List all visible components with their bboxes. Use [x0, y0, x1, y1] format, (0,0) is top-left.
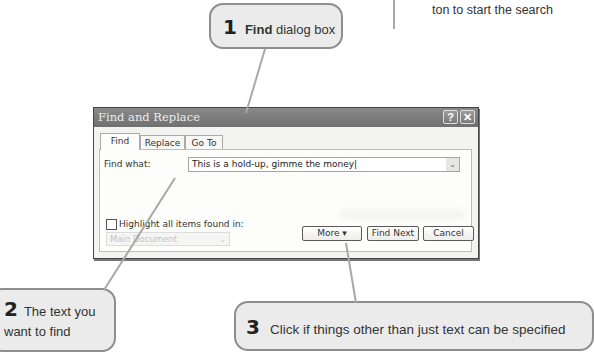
- help-button[interactable]: ?: [443, 110, 458, 124]
- callout-number: 3: [246, 315, 260, 339]
- scope-select[interactable]: Main Document ⌄: [106, 232, 230, 246]
- chevron-down-icon: ⌄: [216, 233, 229, 246]
- find-replace-dialog: Find and Replace ? ✕ Find Replace Go To …: [93, 107, 479, 259]
- tab-find[interactable]: Find: [100, 133, 140, 150]
- cancel-button[interactable]: Cancel: [423, 226, 474, 241]
- close-button[interactable]: ✕: [460, 110, 475, 124]
- highlight-checkbox[interactable]: [106, 219, 117, 230]
- find-what-label: Find what:: [104, 159, 150, 169]
- close-icon: ✕: [463, 111, 472, 123]
- dialog-title: Find and Replace: [98, 110, 200, 124]
- blurred-area: [340, 210, 465, 219]
- tab-replace[interactable]: Replace: [140, 135, 185, 149]
- callout-text: dialog box: [276, 22, 335, 37]
- callout-text: Click if things other than just text can…: [270, 322, 566, 337]
- dialog-titlebar[interactable]: Find and Replace ? ✕: [94, 108, 478, 127]
- tab-label: Find: [111, 136, 129, 146]
- callout-find-text: 2The text you want to find: [0, 288, 116, 352]
- callout-number: 2: [4, 297, 18, 321]
- find-what-input[interactable]: This is a hold-up, gimme the money| ⌄: [188, 157, 460, 172]
- cancel-label: Cancel: [433, 228, 464, 238]
- callout-find-dialog: 1Find dialog box: [209, 3, 343, 49]
- help-icon: ?: [447, 111, 454, 123]
- find-what-value: This is a hold-up, gimme the money: [192, 159, 354, 169]
- more-label: More: [317, 228, 339, 238]
- chevron-down-icon[interactable]: ⌄: [446, 158, 459, 171]
- find-next-button[interactable]: Find Next: [367, 226, 419, 241]
- find-next-label: Find Next: [372, 228, 414, 238]
- divider-line: [393, 0, 395, 29]
- expand-arrow-icon: ▾: [342, 228, 347, 238]
- connector-1: [246, 49, 265, 113]
- highlight-label: Highlight all items found in:: [119, 219, 244, 229]
- previous-caption: ton to start the search: [432, 3, 553, 17]
- callout-bold-text: Find: [245, 22, 272, 37]
- scope-value: Main Document: [110, 234, 177, 244]
- tab-label: Go To: [192, 138, 217, 148]
- tab-goto[interactable]: Go To: [185, 135, 223, 149]
- callout-number: 1: [223, 15, 237, 39]
- more-button[interactable]: More ▾: [302, 226, 362, 241]
- callout-more-options: 3Click if things other than just text ca…: [234, 301, 594, 351]
- tab-label: Replace: [145, 138, 181, 148]
